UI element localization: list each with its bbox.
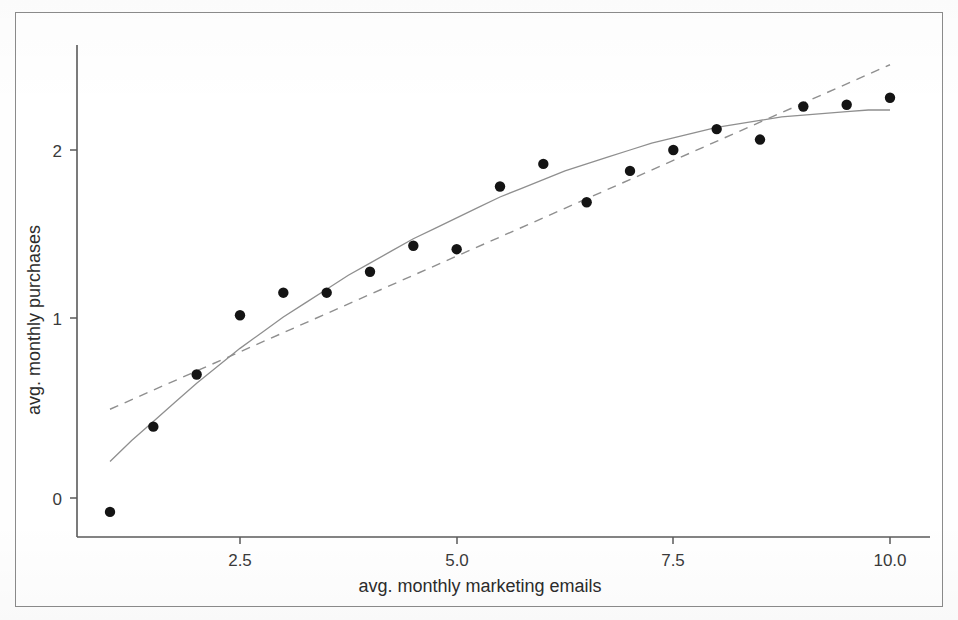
data-point [841, 100, 851, 110]
data-point [321, 287, 331, 297]
y-axis-ticks [70, 150, 77, 498]
scatter-plot: 2 1 0 2.5 5.0 7.5 10.0 avg. monthly mark… [0, 0, 958, 620]
y-tick-label-2: 2 [53, 142, 62, 161]
x-axis-ticks [240, 537, 890, 544]
x-tick-label-7-5: 7.5 [661, 551, 685, 570]
data-point [798, 101, 808, 111]
x-tick-label-10-0: 10.0 [873, 551, 906, 570]
data-point [105, 507, 115, 517]
x-axis-title: avg. monthly marketing emails [358, 576, 601, 596]
data-point [235, 310, 245, 320]
data-point [365, 267, 375, 277]
data-point [625, 166, 635, 176]
data-point [278, 287, 288, 297]
smooth-fit-line [110, 110, 890, 461]
data-point [755, 134, 765, 144]
data-point [668, 145, 678, 155]
x-tick-label-2-5: 2.5 [228, 551, 252, 570]
data-point [538, 159, 548, 169]
data-point [885, 93, 895, 103]
data-point [451, 244, 461, 254]
data-point [408, 241, 418, 251]
x-tick-label-5-0: 5.0 [445, 551, 469, 570]
y-tick-label-0: 0 [53, 490, 62, 509]
data-point [711, 124, 721, 134]
y-tick-label-1: 1 [53, 310, 62, 329]
data-point [581, 197, 591, 207]
y-axis-title: avg. monthly purchases [24, 225, 44, 415]
scanned-figure-page: 2 1 0 2.5 5.0 7.5 10.0 avg. monthly mark… [0, 0, 958, 620]
data-point [148, 421, 158, 431]
data-point [495, 181, 505, 191]
data-point [191, 369, 201, 379]
data-point-group [105, 93, 895, 518]
linear-fit-line [110, 65, 890, 410]
